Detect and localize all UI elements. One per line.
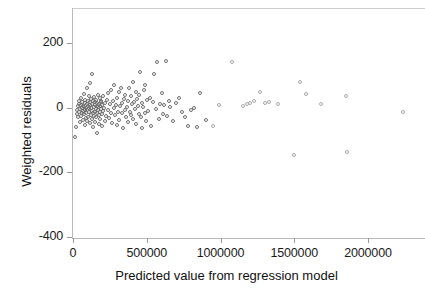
data-point — [117, 118, 121, 122]
y-tick-mark — [67, 108, 72, 109]
data-point — [292, 153, 296, 157]
y-tick-mark — [67, 172, 72, 173]
data-point — [304, 92, 308, 96]
data-point — [171, 119, 175, 123]
data-point — [127, 86, 131, 90]
data-point — [117, 90, 121, 94]
data-point — [125, 105, 129, 109]
data-point — [298, 80, 302, 84]
data-point — [162, 103, 166, 107]
data-point — [90, 72, 94, 76]
data-point — [133, 107, 137, 111]
data-point — [74, 125, 78, 129]
y-axis-title: Weighted residuals — [19, 52, 34, 212]
data-point — [258, 90, 262, 94]
x-tick-mark — [221, 238, 222, 243]
chart-root: 2000-200-400 050000010000001500000200000… — [0, 0, 425, 300]
data-point — [401, 110, 405, 114]
data-point — [137, 93, 141, 97]
data-point — [126, 99, 130, 103]
data-point — [192, 106, 196, 110]
scatter-plot-area — [73, 8, 425, 238]
data-point — [119, 86, 123, 90]
data-point — [142, 88, 146, 92]
x-tick-mark — [147, 238, 148, 243]
x-axis-title: Predicted value from regression model — [0, 268, 425, 283]
data-point — [131, 80, 135, 84]
x-tick-label: 1000000 — [197, 246, 244, 260]
data-point — [112, 83, 116, 87]
data-point — [248, 101, 252, 105]
data-point — [174, 101, 178, 105]
data-point — [73, 135, 77, 139]
data-point — [152, 72, 156, 76]
data-point — [131, 117, 135, 121]
data-point — [230, 60, 234, 64]
data-point — [126, 120, 130, 124]
data-point — [183, 115, 187, 119]
data-point — [115, 123, 119, 127]
data-point — [138, 70, 142, 74]
data-point — [144, 119, 148, 123]
data-point — [155, 60, 159, 64]
data-point — [136, 104, 140, 108]
data-point — [109, 111, 113, 115]
data-point — [105, 98, 109, 102]
data-point — [115, 96, 119, 100]
data-point — [123, 108, 127, 112]
data-point — [241, 104, 245, 108]
data-point — [195, 125, 199, 129]
data-point — [186, 124, 190, 128]
data-point — [135, 97, 139, 101]
data-point — [177, 96, 181, 100]
data-point — [85, 86, 89, 90]
data-point — [161, 112, 165, 116]
data-point — [124, 115, 128, 119]
data-point — [149, 124, 153, 128]
data-point — [120, 111, 124, 115]
data-point — [107, 116, 111, 120]
data-point — [267, 100, 271, 104]
y-tick-label: -200 — [5, 164, 63, 178]
y-tick-label: 200 — [5, 35, 63, 49]
x-axis-line — [72, 238, 425, 239]
x-tick-label: 2000000 — [344, 246, 391, 260]
data-point — [83, 123, 87, 127]
data-point — [146, 109, 150, 113]
data-point — [140, 126, 144, 130]
data-point — [180, 110, 184, 114]
data-point — [109, 88, 113, 92]
x-tick-label: 500000 — [126, 246, 167, 260]
y-tick-label: 0 — [5, 100, 63, 114]
data-point — [91, 125, 95, 129]
data-point — [158, 102, 162, 106]
data-point — [263, 101, 267, 105]
data-point — [151, 100, 155, 104]
data-point — [82, 92, 86, 96]
x-tick-label: 1500000 — [271, 246, 318, 260]
data-point — [129, 94, 133, 98]
data-point — [198, 91, 202, 95]
data-point — [168, 105, 172, 109]
data-point — [108, 102, 112, 106]
y-tick-label: -400 — [5, 229, 63, 243]
data-point — [114, 103, 118, 107]
y-tick-mark — [67, 237, 72, 238]
data-point — [143, 83, 147, 87]
data-point — [167, 99, 171, 103]
data-point — [319, 102, 323, 106]
data-point — [121, 126, 125, 130]
data-point — [345, 150, 349, 154]
data-point — [139, 115, 143, 119]
data-point — [101, 94, 105, 98]
data-point — [120, 101, 124, 105]
data-point — [252, 99, 256, 103]
data-point — [123, 93, 127, 97]
data-point — [110, 121, 114, 125]
x-tick-mark — [73, 238, 74, 243]
data-point — [103, 119, 107, 123]
data-point — [88, 81, 92, 85]
x-tick-mark — [294, 238, 295, 243]
data-point — [141, 105, 145, 109]
x-tick-label: 0 — [70, 246, 77, 260]
